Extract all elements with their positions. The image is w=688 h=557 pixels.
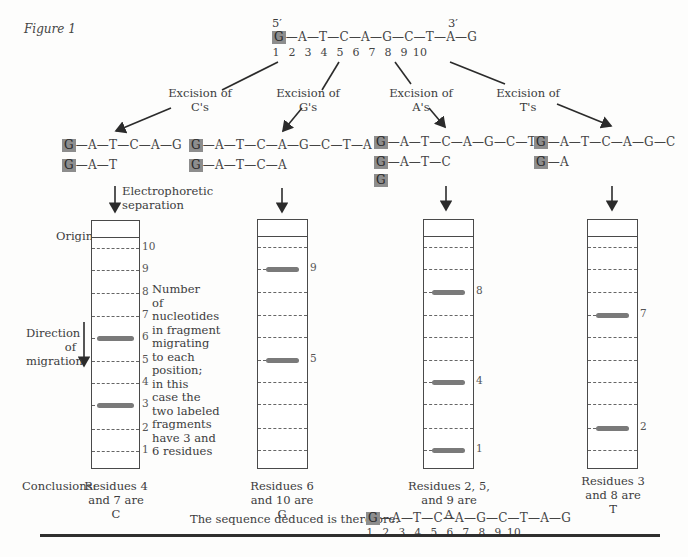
conclusion-a-line2: and 9 are bbox=[404, 493, 494, 507]
branch-label-a-line1: Excision of bbox=[381, 86, 461, 100]
band-tick bbox=[258, 269, 266, 270]
band-tick bbox=[258, 360, 266, 361]
note-line: case the bbox=[152, 391, 220, 405]
gel-lane-t bbox=[587, 219, 638, 469]
branch-label-g-line1: Excision of bbox=[268, 86, 348, 100]
direction-line2: of bbox=[26, 340, 76, 354]
deduced-nucleotide: A bbox=[392, 511, 401, 525]
gel-band bbox=[432, 290, 465, 295]
branch-label-g: Excision of G's bbox=[268, 86, 348, 114]
scale-label: 9 bbox=[142, 262, 149, 274]
band-label: 7 bbox=[640, 307, 647, 319]
gel-position-line bbox=[424, 315, 473, 316]
fragment-g-2: G—A—T—C—A bbox=[189, 158, 287, 172]
bond-dash: — bbox=[443, 511, 455, 525]
fragment-c-2: G—A—T bbox=[62, 158, 117, 172]
branch-label-t-line2: T's bbox=[488, 100, 568, 114]
a-branch-line bbox=[395, 62, 411, 84]
gel-position-line bbox=[588, 404, 637, 405]
gel-position-line bbox=[424, 269, 473, 270]
gel-position-line bbox=[588, 360, 637, 361]
note-line: nucleotides bbox=[152, 310, 220, 324]
gel-position-line bbox=[258, 337, 307, 338]
bond-dash: — bbox=[508, 511, 520, 525]
origin-line bbox=[588, 236, 637, 237]
conclusion-c-line1: Residues 4 bbox=[76, 479, 156, 493]
gel-band bbox=[432, 380, 465, 385]
deduced-nucleotide: G bbox=[561, 511, 571, 525]
bond-dash: — bbox=[401, 511, 413, 525]
fragment-t-2: G—A bbox=[534, 155, 569, 169]
gel-lane-a bbox=[423, 219, 474, 469]
scale-label: 5 bbox=[142, 353, 149, 365]
conclusion-a-line1: Residues 2, 5, bbox=[404, 479, 494, 493]
gel-position-line bbox=[92, 248, 139, 249]
branch-label-t: Excision of T's bbox=[488, 86, 568, 114]
scale-label: 10 bbox=[142, 240, 155, 252]
branch-label-c-line1: Excision of bbox=[160, 86, 240, 100]
band-label: 2 bbox=[640, 420, 647, 432]
band-tick bbox=[424, 450, 432, 451]
direction-line3: migration bbox=[26, 354, 76, 368]
scale-label: 3 bbox=[142, 397, 149, 409]
t-branch-line bbox=[450, 62, 505, 84]
gel-band bbox=[596, 426, 629, 431]
note-line: of bbox=[152, 297, 220, 311]
fragment-a-3: G bbox=[374, 173, 388, 187]
gel-band bbox=[266, 267, 299, 272]
direction-label: Direction of migration bbox=[26, 326, 76, 368]
deduced-nucleotide: T bbox=[520, 511, 528, 525]
conclusion-c-line3: C bbox=[76, 507, 156, 521]
gel-position-line bbox=[588, 337, 637, 338]
branch-label-g-line2: G's bbox=[268, 100, 348, 114]
labeled-residue-box: G bbox=[62, 159, 76, 172]
fragment-g-2-tail: —A—T—C—A bbox=[203, 158, 287, 172]
bond-dash: — bbox=[421, 511, 433, 525]
band-label: 8 bbox=[476, 284, 483, 296]
deduced-sequence: G—A—T—C—A—G—C—T—A—G bbox=[366, 511, 571, 525]
bond-dash: — bbox=[464, 511, 476, 525]
fragment-a-2-tail: —A—T—C bbox=[388, 155, 451, 169]
branch-label-t-line1: Excision of bbox=[488, 86, 568, 100]
origin-line bbox=[258, 236, 307, 237]
fragment-t-1: G—A—T—C—A—G—C bbox=[534, 135, 675, 149]
electrophoretic-line2: separation bbox=[122, 198, 213, 212]
labeled-residue-box: G bbox=[374, 174, 388, 187]
branch-label-a-line2: A's bbox=[381, 100, 461, 114]
gel-position-line bbox=[258, 247, 307, 248]
gel-position-line bbox=[258, 404, 307, 405]
branch-label-c: Excision of C's bbox=[160, 86, 240, 114]
labeled-residue-box: G bbox=[62, 139, 76, 152]
note-line: two labeled bbox=[152, 405, 220, 419]
band-tick bbox=[424, 382, 432, 383]
gel-band bbox=[266, 358, 299, 363]
direction-line1: Direction bbox=[26, 326, 76, 340]
band-label: 9 bbox=[310, 261, 317, 273]
bond-dash: — bbox=[486, 511, 498, 525]
gel-position-line bbox=[424, 337, 473, 338]
labeled-residue-box: G bbox=[374, 156, 388, 169]
note-line: fragments bbox=[152, 418, 220, 432]
scale-label: 4 bbox=[142, 375, 149, 387]
fragment-t-2-tail: —A bbox=[548, 155, 569, 169]
deduced-nucleotide: G bbox=[476, 511, 486, 525]
scale-label: 2 bbox=[142, 421, 149, 433]
gel-position-line bbox=[258, 428, 307, 429]
gel-position-line bbox=[424, 428, 473, 429]
fragment-t-1-tail: —A—T—C—A—G—C bbox=[548, 135, 676, 149]
gel-lane-g bbox=[257, 219, 308, 469]
band-label: 1 bbox=[476, 442, 483, 454]
conclusion-t-line3: T bbox=[573, 502, 653, 516]
note-line: have 3 and bbox=[152, 432, 220, 446]
gel-position-line bbox=[92, 293, 139, 294]
conclusion-g-line1: Residues 6 bbox=[242, 479, 322, 493]
gel-band bbox=[97, 336, 134, 341]
labeled-residue-box: G bbox=[366, 512, 380, 525]
note-line: in this bbox=[152, 378, 220, 392]
conclusion-c-line2: and 7 are bbox=[76, 493, 156, 507]
conclusion-g-line2: and 10 are bbox=[242, 493, 322, 507]
gel-position-line bbox=[92, 316, 139, 317]
labeled-residue-box: G bbox=[374, 136, 388, 149]
nucleotide-count-note: Numberofnucleotidesin fragmentmigratingt… bbox=[152, 283, 220, 459]
gel-band bbox=[596, 313, 629, 318]
